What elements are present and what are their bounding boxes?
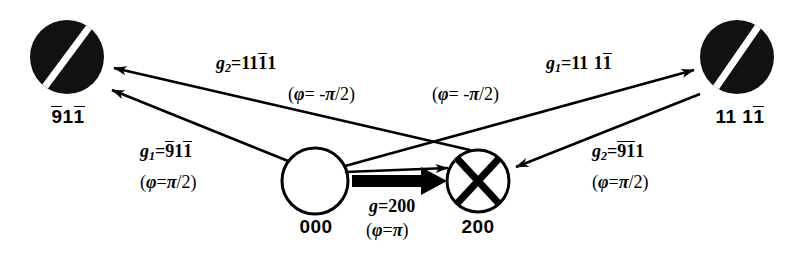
label-g2-upper-left: g2=1111 [216, 52, 276, 76]
phase-g1-lower-left: (φ=π/2) [140, 172, 197, 193]
node-left-caption: 911 [30, 105, 106, 128]
node-200-graphic [447, 150, 509, 212]
node-right-caption: 1111 [694, 105, 786, 128]
phase-g-center: (φ=π) [366, 220, 409, 241]
node-right-graphic [700, 18, 774, 96]
node-200-caption: 200 [446, 216, 510, 238]
node-000-graphic [282, 148, 348, 214]
node-left-graphic [30, 18, 104, 96]
node-000-caption: 000 [283, 216, 349, 238]
arrow-200-to-left [114, 68, 470, 150]
phase-g2-lower-right: (φ=π/2) [592, 172, 649, 193]
arrow-000-to-left [112, 90, 288, 161]
label-g1-upper-right: g1=1111 [546, 52, 612, 76]
label-g1-lower-left: g1=911 [140, 140, 192, 164]
arrow-000-to-200-thin [345, 168, 448, 172]
label-g-center: g=200 [369, 196, 415, 217]
diffraction-diagram: 911 1111 000 200 g2=1111 (φ= -π/2) g1=11… [0, 0, 802, 254]
phase-g2-upper-left: (φ= -π/2) [288, 84, 355, 105]
label-g2-lower-right: g2=911 [592, 140, 644, 164]
phase-g1-upper-right: (φ= -π/2) [432, 84, 499, 105]
